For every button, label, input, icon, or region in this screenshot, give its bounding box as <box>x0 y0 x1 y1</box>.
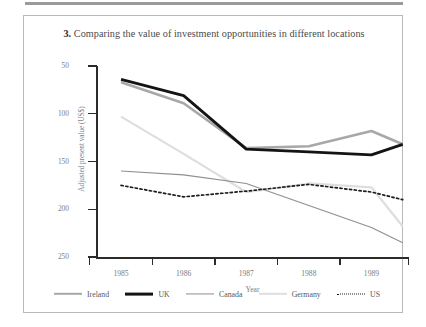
legend-swatch-icon <box>337 289 365 299</box>
legend-label: UK <box>158 290 169 299</box>
y-tick-label: 250 <box>43 252 69 261</box>
legend-item-canada[interactable]: Canada <box>186 289 242 299</box>
legend-item-germany[interactable]: Germany <box>259 289 321 299</box>
y-tick-label: 150 <box>43 157 69 166</box>
legend-label: Germany <box>292 290 321 299</box>
legend-item-us[interactable]: US <box>337 289 380 299</box>
x-tick-label: 1986 <box>164 269 204 278</box>
legend-swatch-icon <box>125 289 153 299</box>
chart-series-canvas <box>73 53 387 268</box>
series-line-uk <box>121 79 403 154</box>
figure-frame: 3. Comparing the value of investment opp… <box>23 15 403 313</box>
legend-label: Ireland <box>87 290 109 299</box>
y-tick-label: 100 <box>43 109 69 118</box>
legend-swatch-icon <box>259 289 287 299</box>
x-tick-label: 1987 <box>226 269 266 278</box>
x-tick-label: 1985 <box>101 269 141 278</box>
legend-swatch-icon <box>186 289 214 299</box>
x-tick-label: 1989 <box>351 269 391 278</box>
legend-label: Canada <box>219 290 242 299</box>
y-tick-label: 50 <box>43 61 69 70</box>
page-root: 3. Comparing the value of investment opp… <box>0 0 426 327</box>
series-line-ireland <box>121 82 403 148</box>
legend-label: US <box>370 290 380 299</box>
figure-title-text: Comparing the value of investment opport… <box>74 28 365 39</box>
legend-swatch-icon <box>54 289 82 299</box>
page-top-rule <box>25 2 403 5</box>
legend-item-ireland[interactable]: Ireland <box>54 289 109 299</box>
x-tick-mark <box>408 258 409 265</box>
x-tick-label: 1988 <box>289 269 329 278</box>
y-tick-label: 200 <box>43 204 69 213</box>
chart-legend: IrelandUKCanadaGermanyUS <box>30 283 398 305</box>
figure-title: 3. Comparing the value of investment opp… <box>24 28 404 39</box>
chart-plot-area: Adjusted present value (US$) Year 250200… <box>73 53 387 268</box>
series-line-canada <box>121 171 403 243</box>
figure-number: 3. <box>63 28 71 39</box>
legend-item-uk[interactable]: UK <box>125 289 169 299</box>
